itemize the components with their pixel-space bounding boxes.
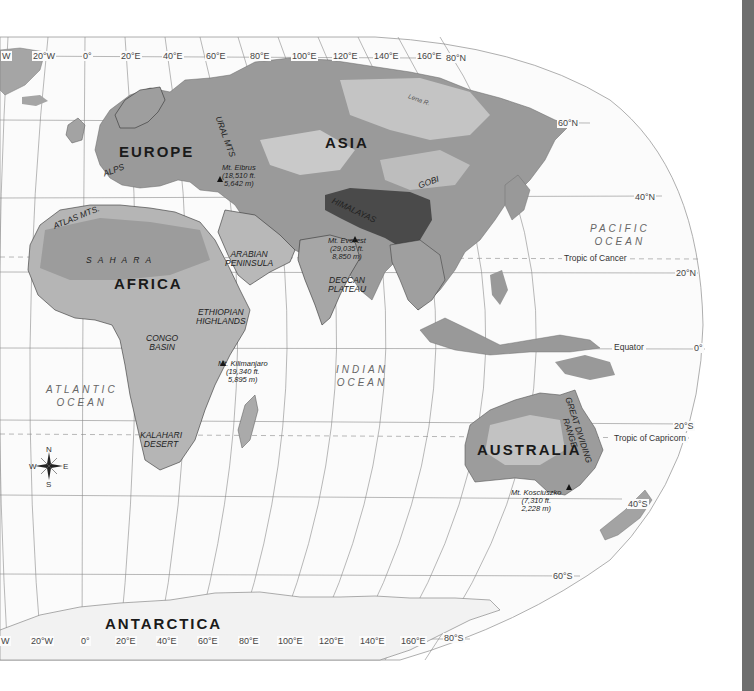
ocean-label-line: PACIFIC — [590, 222, 650, 235]
latitude-label-40n: 40°N — [634, 192, 656, 202]
region-label-arabian: ARABIAN PENINSULA — [225, 250, 273, 268]
region-label-kalahari: KALAHARI DESERT — [140, 431, 182, 449]
peak-label-everest: Mt. Everest (29,035 ft. 8,850 m) — [328, 237, 366, 261]
longitude-label: 60°E — [205, 51, 227, 61]
longitude-label: 20°E — [120, 51, 142, 61]
latitude-label-60s: 60°S — [552, 571, 574, 581]
peak-label-kosciuszko: Mt. Kosciuszko (7,310 ft. 2,228 m) — [511, 489, 561, 513]
compass-north-label: N — [46, 445, 52, 454]
latitude-label-20n: 20°N — [675, 268, 697, 278]
longitude-label: 160°E — [416, 51, 443, 61]
continent-label-africa: AFRICA — [114, 275, 183, 292]
continent-label-europe: EUROPE — [119, 143, 194, 160]
peak-height-m: 8,850 m) — [328, 253, 366, 261]
longitude-label: 140°E — [359, 636, 386, 646]
continent-label-antarctica: ANTARCTICA — [105, 615, 222, 632]
region-label-line: PLATEAU — [328, 285, 366, 294]
longitude-label: 0° — [82, 51, 93, 61]
region-label-ethiopian: ETHIOPIAN HIGHLANDS — [196, 308, 246, 326]
longitude-label: 80°E — [238, 636, 260, 646]
longitude-label: 60°E — [197, 636, 219, 646]
peak-height-m: 5,895 m) — [218, 376, 268, 384]
region-label-sahara: S A H A R A — [86, 256, 153, 265]
latitude-label-80n: 80°N — [445, 53, 467, 63]
longitude-label: 100°E — [277, 636, 304, 646]
longitude-label: W — [1, 51, 12, 61]
longitude-label: 20°E — [115, 636, 137, 646]
longitude-label: 80°E — [249, 51, 271, 61]
region-label-line: HIGHLANDS — [196, 317, 246, 326]
longitude-label: 40°E — [162, 51, 184, 61]
ocean-label-indian: INDIAN OCEAN — [336, 363, 388, 389]
longitude-label: 160°E — [400, 636, 427, 646]
ocean-label-line: OCEAN — [336, 376, 388, 389]
peak-height-m: 5,642 m) — [222, 180, 256, 188]
longitude-label: 120°E — [318, 636, 345, 646]
ocean-label-line: OCEAN — [590, 235, 650, 248]
region-label-congo: CONGO BASIN — [146, 334, 178, 352]
latitude-label-equator: 0° — [693, 343, 704, 353]
region-label-line: DESERT — [140, 440, 182, 449]
ocean-label-atlantic: ATLANTIC OCEAN — [46, 383, 118, 409]
region-label-line: PENINSULA — [225, 259, 273, 268]
compass-south-label: S — [46, 480, 51, 489]
page-edge-bar — [742, 0, 754, 691]
ocean-label-line: OCEAN — [46, 396, 118, 409]
region-label-line: BASIN — [146, 343, 178, 352]
ocean-label-line: ATLANTIC — [46, 383, 118, 396]
peak-height-m: 2,228 m) — [511, 505, 561, 513]
peak-label-elbrus: Mt. Elbrus (18,510 ft. 5,642 m) — [222, 164, 256, 188]
longitude-label: 120°E — [332, 51, 359, 61]
tropic-of-cancer-label: Tropic of Cancer — [562, 253, 629, 263]
longitude-label: 20°W — [30, 636, 54, 646]
latitude-label-60n: 60°N — [557, 118, 579, 128]
latitude-label-20s: 20°S — [673, 421, 695, 431]
longitude-label: 20°W — [32, 51, 56, 61]
compass-west-label: W — [29, 462, 37, 471]
latitude-label-40s: 40°S — [627, 499, 649, 509]
region-label-deccan: DECCAN PLATEAU — [328, 276, 366, 294]
compass-east-label: E — [63, 462, 68, 471]
longitude-label: 100°E — [291, 51, 318, 61]
continent-label-australia: AUSTRALIA — [477, 441, 582, 458]
longitude-label: 140°E — [373, 51, 400, 61]
latitude-label-80s: 80°S — [443, 633, 465, 643]
peak-label-kilimanjaro: Mt. Kilimanjaro (19,340 ft. 5,895 m) — [218, 360, 268, 384]
longitude-label: W — [0, 636, 11, 646]
continent-label-asia: ASIA — [325, 134, 369, 151]
longitude-label: 0° — [80, 636, 91, 646]
ocean-label-pacific: PACIFIC OCEAN — [590, 222, 650, 248]
ocean-label-line: INDIAN — [336, 363, 388, 376]
tropic-of-capricorn-label: Tropic of Capricorn — [612, 433, 688, 443]
equator-label: Equator — [612, 342, 646, 352]
longitude-label: 40°E — [156, 636, 178, 646]
